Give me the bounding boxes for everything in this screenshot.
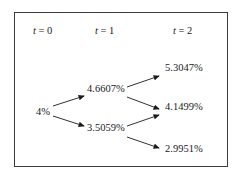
arrow-t1-up-to-t2-uu-icon <box>127 76 159 87</box>
arrow-t0-to-t1-up-icon <box>53 96 84 106</box>
arrow-t1-up-to-t2-ud-icon <box>127 97 159 109</box>
arrow-t0-to-t1-down-icon <box>53 116 84 126</box>
arrow-t1-down-to-t2-dd-icon <box>127 137 159 148</box>
tree-arrows <box>0 0 239 178</box>
arrow-t1-down-to-t2-ud-icon <box>127 115 159 126</box>
